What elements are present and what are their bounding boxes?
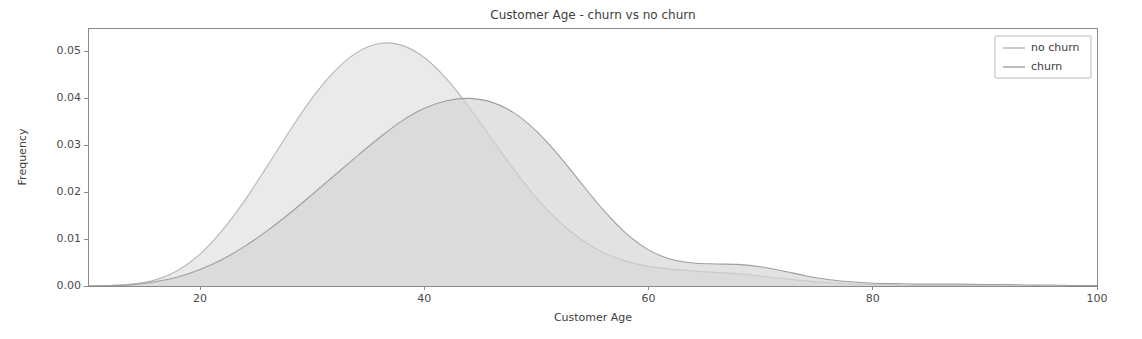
legend-label-no-churn: no churn [1031, 41, 1080, 54]
x-axis-label: Customer Age [554, 311, 632, 324]
y-tick-label-0.03: 0.03 [57, 138, 82, 151]
y-tick-label-0.04: 0.04 [57, 91, 82, 104]
y-tick-label-0.01: 0.01 [57, 232, 82, 245]
legend-label-churn: churn [1031, 60, 1062, 73]
x-tick-label-100: 100 [1087, 292, 1108, 305]
x-tick-label-60: 60 [642, 292, 656, 305]
kde-density-chart: 204060801000.000.010.020.030.040.05 Cust… [0, 0, 1142, 339]
x-tick-label-80: 80 [866, 292, 880, 305]
y-tick-label-0.00: 0.00 [57, 279, 82, 292]
chart-figure: 204060801000.000.010.020.030.040.05 Cust… [0, 0, 1142, 339]
y-tick-label-0.05: 0.05 [57, 44, 82, 57]
y-axis-label: Frequency [16, 128, 29, 185]
x-tick-label-20: 20 [193, 292, 207, 305]
chart-title: Customer Age - churn vs no churn [490, 8, 695, 22]
x-tick-label-40: 40 [417, 292, 431, 305]
figure-background [0, 0, 1142, 339]
y-tick-label-0.02: 0.02 [57, 185, 82, 198]
chart-legend[interactable]: no churnchurn [995, 36, 1091, 78]
